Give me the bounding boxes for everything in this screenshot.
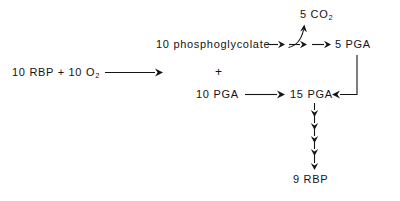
node-substrate-label: 10 RBP + 10 O: [12, 66, 95, 78]
arrow-branch-to-pga5: [312, 41, 331, 48]
arrow-pga5-feedback-to-pga15: [332, 55, 357, 98]
node-pga5: 5 PGA: [335, 39, 371, 50]
node-co2: 5 CO2: [300, 9, 333, 22]
node-plus: +: [215, 66, 222, 78]
arrow-pga10-to-pga15: [245, 91, 285, 99]
node-substrate: 10 RBP + 10 O2: [12, 67, 99, 80]
node-substrate-subscript: 2: [95, 71, 99, 80]
arrow-pga15-to-rbp9-1: [311, 103, 318, 117]
arrow-pga15-to-rbp9-5: [311, 155, 318, 170]
node-co2-label: 5 CO: [300, 8, 328, 20]
node-pga10: 10 PGA: [196, 89, 239, 100]
arrow-pga15-to-rbp9-3: [311, 129, 318, 143]
node-pga15: 15 PGA: [290, 89, 333, 100]
arrow-layer: -->: [0, 0, 400, 201]
node-co2-subscript: 2: [328, 13, 332, 22]
arrow-substrate-to-products: [105, 69, 163, 77]
photorespiration-diagram: -->: [0, 0, 400, 201]
node-rbp9: 9 RBP: [293, 174, 328, 185]
arrow-pga15-to-rbp9-2: [311, 116, 318, 130]
arrow-pga15-to-rbp9-4: [311, 142, 318, 156]
node-phosphoglycolate: 10 phosphoglycolate: [156, 39, 270, 50]
